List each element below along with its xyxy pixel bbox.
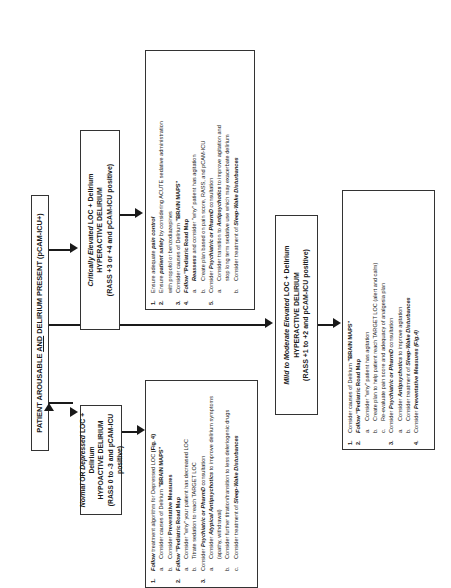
hypoactive-title: Normal OR Depressed LOC + Delirium xyxy=(78,406,96,514)
mild-step-3: 3. Consider Psychiatric or PharmD consul… xyxy=(387,195,395,445)
crit-step-1: 1. Ensure adequate pain control xyxy=(149,55,157,305)
critical-steps-box: 1. Ensure adequate pain control 2. Ensur… xyxy=(145,50,255,310)
crit-step-5a: a. Consider transition to Antipsychotics… xyxy=(215,55,223,305)
mild-steps-box: 1. Consider causes of Delirium "BRAIN MA… xyxy=(342,190,435,450)
hypo-step-3c: c. Consider treatment of Sleep-Wake Dist… xyxy=(232,385,240,583)
mild-title: Mild to Moderate Elevated LOC + Delirium xyxy=(282,245,291,384)
hypo-step-3a: a. Consider Atypical Antipsychotics to i… xyxy=(207,385,215,583)
hypo-step-1a: a. Consider causes of Delirium "BRAIN MA… xyxy=(157,385,165,583)
critical-title: Critically Elevated LOC + Delirium xyxy=(86,173,95,286)
crit-step-5b: b. Consider treatment of Sleep-Wake Dist… xyxy=(232,55,240,305)
hypo-step-2: 2. Follow "Pediatric Road Map xyxy=(174,385,182,583)
hypo-step-3: 3. Consider Psychiatric or PharmD consul… xyxy=(199,385,207,583)
critical-subtitle: HYPERACTIVE DELIRIUM xyxy=(95,187,104,273)
hypo-step-2b: b. Titrate sedation to reach TARGET LOC xyxy=(190,385,198,583)
mild-criteria: (RASS +1 to +2 and pCAM-ICU positive) xyxy=(301,249,310,381)
mild-subtitle: HYPERACTIVE DELIRIUM xyxy=(292,272,301,358)
mild-step-2a: a. Consider "why" patient has agitation xyxy=(363,195,371,445)
mild-step-3a: a. Consider Antipsychotics to improve ag… xyxy=(396,195,404,445)
hypoactive-steps-box: 1. Follow treatment algorithm for Depres… xyxy=(145,380,258,588)
delirium-flowchart: PATIENT AROUSABLE AND DELIRIUM PRESENT (… xyxy=(0,0,451,588)
crit-step-4b: b. Create plan based on pain score, RASS… xyxy=(199,55,207,305)
critical-header-box: Critically Elevated LOC + Delirium HYPER… xyxy=(80,130,120,330)
connector-main-hypoactive xyxy=(49,402,73,404)
hypoactive-criteria: (RASS 0 to -3 and pCAM-ICU positive) xyxy=(106,406,124,514)
hypo-step-1: 1. Follow treatment algorithm for Depres… xyxy=(149,385,157,583)
main-box-title: PATIENT AROUSABLE AND DELIRIUM PRESENT (… xyxy=(35,213,45,432)
mild-step-3b: b. Consider treatment of Sleep-Wake Dist… xyxy=(404,195,412,445)
hypoactive-subtitle: HYPOACTIVE DELIRIUM xyxy=(96,421,105,500)
crit-step-4a: a. Reassess and consider "why" patient h… xyxy=(190,55,198,305)
main-box: PATIENT AROUSABLE AND DELIRIUM PRESENT (… xyxy=(31,195,49,451)
crit-step-4: 4. Follow "Pediatric Road Map xyxy=(182,55,190,305)
hypo-step-3b: b. Consider further titration/transition… xyxy=(223,385,231,583)
crit-step-3: 3. Consider causes of Delirium "BRAIN MA… xyxy=(174,55,182,305)
hypo-step-2a: a. Consider "why" your patient has decre… xyxy=(182,385,190,583)
hypo-step-1b: b. Consider Preventative Measures xyxy=(166,385,174,583)
mild-step-2: 2. Follow "Pediatric Road Map xyxy=(354,195,362,445)
mild-step-2b: b. Create plan to help patient reach TAR… xyxy=(371,195,379,445)
crit-step-5a-cont: stop long term sedative use which may ex… xyxy=(223,55,231,305)
crit-step-2: 2. Ensure patient safety by considering … xyxy=(157,55,165,305)
critical-criteria: (RASS +3 or +4 and pCAM-ICU positive) xyxy=(105,164,114,296)
mild-step-1: 1. Consider causes of Delirium "BRAIN MA… xyxy=(346,195,354,445)
crit-step-2-cont: with propofol or benzodiazepines xyxy=(166,55,174,305)
mild-step-4: 4. Consider Preventative Measures (Fig.4… xyxy=(412,195,420,445)
mild-header-box: Mild to Moderate Elevated LOC + Delirium… xyxy=(275,215,318,415)
hypo-step-3a-cont: (apathy, withdrawal) xyxy=(215,385,223,583)
mild-step-2c: c. Re-evaluate pain score and adequacy o… xyxy=(379,195,387,445)
hypoactive-header-box: Normal OR Depressed LOC + Delirium HYPOA… xyxy=(80,405,122,515)
crit-step-5: 5. Consider Psychiatric or PharmD consul… xyxy=(207,55,215,305)
